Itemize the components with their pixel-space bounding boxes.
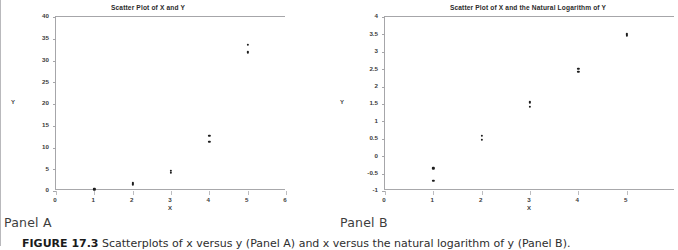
y-axis-tick <box>53 39 57 40</box>
scatter-point <box>577 71 579 73</box>
x-axis-tick-label: 0 <box>45 196 65 203</box>
y-axis-tick-label: 20 <box>23 99 49 106</box>
panel-b-x-axis-label: X <box>519 205 539 211</box>
y-axis-tick-label: 1 <box>352 117 378 124</box>
y-axis-tick-label: 4 <box>352 12 378 19</box>
x-axis-tick <box>133 191 134 195</box>
y-axis-tick-label: 25 <box>23 78 49 85</box>
scatter-point <box>481 139 483 141</box>
y-axis-tick-label: 30 <box>23 56 49 63</box>
y-axis-tick <box>382 17 386 18</box>
y-axis-tick-label: 15 <box>23 121 49 128</box>
x-axis-tick <box>627 191 628 195</box>
scatter-point <box>208 141 210 143</box>
x-axis-tick-label: 5 <box>237 196 257 203</box>
panel-a-caption: Panel A <box>4 215 52 230</box>
y-axis-tick-label: 3 <box>352 47 378 54</box>
y-axis-tick-label: 0 <box>352 152 378 159</box>
y-axis-tick <box>53 82 57 83</box>
y-axis-tick <box>53 169 57 170</box>
scatter-point <box>432 179 434 181</box>
y-axis-tick-label: -0.5 <box>352 169 378 176</box>
y-axis-tick-label: 0 <box>23 186 49 193</box>
x-axis-tick-label: 6 <box>275 196 295 203</box>
x-axis-tick-label: 3 <box>160 196 180 203</box>
panel-b-chart-title: Scatter Plot of X and the Natural Logari… <box>358 4 678 11</box>
y-axis-tick-label: 3.5 <box>352 30 378 37</box>
panel-a-plot-area <box>55 16 285 190</box>
y-axis-tick-label: 2.5 <box>352 65 378 72</box>
x-axis-tick <box>286 191 287 195</box>
x-axis-tick-label: 5 <box>616 196 636 203</box>
scatter-point <box>626 35 628 37</box>
y-axis-tick <box>382 139 386 140</box>
x-axis-tick-label: 3 <box>519 196 539 203</box>
panel-a-chart-title: Scatter Plot of X and Y <box>0 4 318 11</box>
scatter-point <box>170 172 172 174</box>
y-axis-tick <box>53 61 57 62</box>
y-axis-tick <box>382 87 386 88</box>
y-axis-tick-label: -1 <box>352 186 378 193</box>
x-axis-tick <box>171 191 172 195</box>
panel-b-caption: Panel B <box>340 215 388 230</box>
scatter-point <box>247 44 249 46</box>
scatter-point <box>247 51 249 53</box>
y-axis-tick <box>53 17 57 18</box>
y-axis-tick <box>53 104 57 105</box>
x-axis-tick <box>385 191 386 195</box>
x-axis-tick-label: 4 <box>567 196 587 203</box>
y-axis-tick <box>382 52 386 53</box>
x-axis-tick-label: 2 <box>122 196 142 203</box>
x-axis-tick <box>482 191 483 195</box>
x-axis-tick <box>56 191 57 195</box>
y-axis-tick-label: 5 <box>23 165 49 172</box>
scatter-point <box>432 167 434 169</box>
x-axis-tick <box>433 191 434 195</box>
scatter-point <box>577 67 579 69</box>
y-axis-tick-label: 1.5 <box>352 99 378 106</box>
x-axis-tick <box>94 191 95 195</box>
x-axis-tick <box>530 191 531 195</box>
scatter-point <box>529 106 531 108</box>
panel-b-y-axis-label: Y <box>340 99 344 105</box>
x-axis-tick-label: 1 <box>422 196 442 203</box>
y-axis-tick-label: 35 <box>23 34 49 41</box>
x-axis-tick-label: 4 <box>198 196 218 203</box>
y-axis-tick <box>53 148 57 149</box>
y-axis-tick-label: 10 <box>23 143 49 150</box>
y-axis-tick <box>53 126 57 127</box>
y-axis-tick-label: 2 <box>352 82 378 89</box>
y-axis-tick-label: 0.5 <box>352 134 378 141</box>
figure-caption: FIGURE 17.3 Scatterplots of x versus y (… <box>22 237 672 250</box>
y-axis-tick <box>382 69 386 70</box>
x-axis-tick <box>578 191 579 195</box>
figure-caption-label: FIGURE 17.3 <box>22 237 99 250</box>
scatter-point <box>529 101 531 103</box>
x-axis-tick <box>209 191 210 195</box>
figure-caption-text: Scatterplots of x versus y (Panel A) and… <box>102 237 570 250</box>
y-axis-tick-label: 40 <box>23 12 49 19</box>
panel-b-plot-area <box>384 16 674 190</box>
scatter-point <box>208 135 210 137</box>
y-axis-tick <box>382 121 386 122</box>
x-axis-tick-label: 2 <box>471 196 491 203</box>
y-axis-tick <box>382 104 386 105</box>
y-axis-tick <box>382 174 386 175</box>
y-axis-tick <box>382 34 386 35</box>
panel-a-x-axis-label: X <box>160 205 180 211</box>
x-axis-tick <box>248 191 249 195</box>
y-axis-tick <box>382 156 386 157</box>
panel-a: Scatter Plot of X and Y Y X 051015202530… <box>0 0 340 246</box>
panel-b: Scatter Plot of X and the Natural Logari… <box>336 0 676 246</box>
x-axis-tick-label: 1 <box>83 196 103 203</box>
panel-a-y-axis-label: Y <box>11 99 15 105</box>
scatter-point <box>481 135 483 137</box>
x-axis-tick-label: 0 <box>374 196 394 203</box>
